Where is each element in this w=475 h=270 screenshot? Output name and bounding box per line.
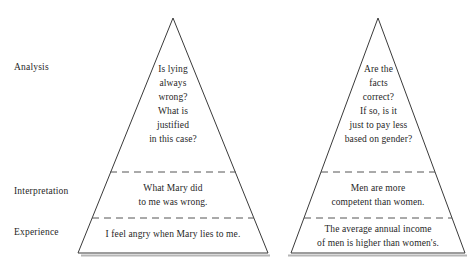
text-line: in this case? xyxy=(113,132,233,146)
text-line: Are the xyxy=(306,62,451,76)
left-pyramid-interpretation-text: What Mary didto me was wrong. xyxy=(93,181,253,209)
text-line: Men are more xyxy=(293,181,463,195)
stage-label-interpretation: Interpretation xyxy=(14,186,69,196)
text-line: justified xyxy=(113,118,233,132)
text-line: The average annual income xyxy=(283,222,473,236)
text-line: correct? xyxy=(306,90,451,104)
text-line: always xyxy=(113,76,233,90)
text-line: I feel angry when Mary lies to me. xyxy=(78,227,268,241)
left-pyramid-experience-text: I feel angry when Mary lies to me. xyxy=(78,227,268,241)
text-line: Is lying xyxy=(113,62,233,76)
text-line: to me was wrong. xyxy=(93,195,253,209)
text-line: What Mary did xyxy=(93,181,253,195)
right-pyramid-interpretation-text: Men are morecompetent than women. xyxy=(293,181,463,209)
text-line: just to pay less xyxy=(306,118,451,132)
stage-label-experience: Experience xyxy=(14,227,59,237)
right-pyramid-analysis-text: Are thefactscorrect?If so, is itjust to … xyxy=(306,62,451,146)
right-pyramid-experience-text: The average annual incomeof men is highe… xyxy=(283,222,473,250)
stage-label-analysis: Analysis xyxy=(14,62,49,72)
left-pyramid-analysis-text: Is lyingalwayswrong?What isjustifiedin t… xyxy=(113,62,233,146)
text-line: based on gender? xyxy=(306,132,451,146)
text-line: wrong? xyxy=(113,90,233,104)
text-line: If so, is it xyxy=(306,104,451,118)
text-line: What is xyxy=(113,104,233,118)
text-line: of men is higher than women's. xyxy=(283,236,473,250)
text-line: competent than women. xyxy=(293,195,463,209)
text-line: facts xyxy=(306,76,451,90)
